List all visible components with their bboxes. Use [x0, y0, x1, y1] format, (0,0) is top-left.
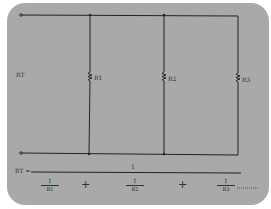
- term-denominator: R3: [215, 186, 237, 192]
- resistor-r3-label: R3: [242, 77, 250, 83]
- formula-numerator: 1: [131, 164, 135, 170]
- term-1-over-r3: 1 R3: [215, 178, 237, 192]
- resistor-r2-label: R2: [168, 76, 176, 82]
- term-numerator: 1: [39, 178, 61, 185]
- term-1-over-r2: 1 R2: [124, 178, 146, 192]
- resistor-r3-icon: [236, 73, 240, 82]
- plus-sign: +: [81, 179, 90, 190]
- resistor-r1-icon: [88, 72, 92, 81]
- term-1-over-r1: 1 R1: [39, 178, 61, 192]
- term-numerator: 1: [215, 178, 237, 185]
- bottom-wire: [21, 153, 238, 155]
- junction: [163, 153, 165, 155]
- term-denominator: R2: [124, 186, 146, 192]
- plus-sign: +: [178, 179, 187, 190]
- resistor-r2-icon: [162, 72, 166, 81]
- resistor-r1-label: R1: [94, 75, 102, 81]
- term-denominator: R1: [39, 186, 61, 192]
- total-resistance-label: RT: [16, 72, 24, 78]
- term-numerator: 1: [124, 178, 146, 185]
- top-wire: [21, 15, 238, 16]
- junction: [88, 153, 90, 155]
- formula-fraction-bar: [31, 172, 241, 173]
- junction: [163, 14, 165, 16]
- junction: [89, 14, 91, 16]
- formula-lhs: RT =: [15, 168, 30, 174]
